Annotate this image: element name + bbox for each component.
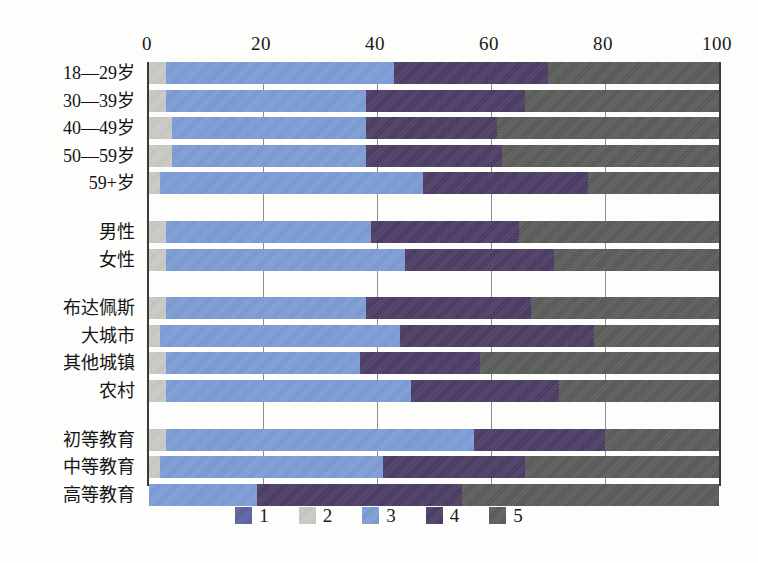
bar-segment (366, 117, 497, 139)
bar-segment (480, 352, 719, 374)
bar-segment (519, 221, 719, 243)
bar-segment (149, 297, 166, 319)
bar-segment (594, 325, 719, 347)
y-axis-label: 50—59岁 (63, 146, 135, 166)
legend-label: 1 (259, 506, 269, 525)
bar-segment (160, 456, 382, 478)
bar-segment (474, 429, 605, 451)
legend-label: 4 (450, 506, 460, 525)
bar-row (149, 429, 719, 451)
bar-segment (149, 484, 257, 506)
bar-row (149, 62, 719, 84)
legend-item[interactable]: 4 (426, 506, 460, 525)
bar-segment (605, 429, 719, 451)
bar-row (149, 380, 719, 402)
x-tick-label: 100 (702, 33, 732, 55)
bar-segment (149, 90, 166, 112)
y-axis-label: 女性 (99, 250, 135, 270)
bar-segment (166, 429, 474, 451)
bar-segment (166, 62, 394, 84)
bar-rows (149, 62, 719, 486)
plot-area (147, 62, 719, 486)
bar-row (149, 90, 719, 112)
bar-segment (423, 172, 588, 194)
bar-segment (360, 352, 480, 374)
legend-item[interactable]: 2 (299, 506, 333, 525)
bar-segment (497, 117, 719, 139)
y-axis-label: 大城市 (81, 326, 135, 346)
bar-segment (166, 380, 411, 402)
bar-segment (166, 249, 405, 271)
y-axis-category-labels: 18—29岁30—39岁40—49岁50—59岁59+岁男性女性布达佩斯大城市其… (0, 62, 141, 486)
legend-swatch-icon (489, 507, 506, 524)
bar-segment (502, 145, 719, 167)
bar-segment (149, 352, 166, 374)
legend-swatch-icon (426, 507, 443, 524)
y-axis-label: 其他城镇 (63, 353, 135, 373)
bar-segment (405, 249, 553, 271)
legend-item[interactable]: 1 (235, 506, 269, 525)
y-axis-label: 30—39岁 (63, 91, 135, 111)
bar-row (149, 145, 719, 167)
bar-segment (166, 221, 371, 243)
y-axis-label: 18—29岁 (63, 63, 135, 83)
bar-segment (394, 62, 548, 84)
bar-segment (149, 456, 160, 478)
bar-row (149, 325, 719, 347)
x-tick-label: 60 (479, 33, 499, 55)
bar-row (149, 172, 719, 194)
bar-segment (149, 429, 166, 451)
x-tick-label: 20 (251, 33, 271, 55)
bar-segment (366, 90, 526, 112)
bar-segment (525, 90, 719, 112)
bar-segment (588, 172, 719, 194)
y-axis-label: 高等教育 (63, 485, 135, 505)
bar-segment (160, 325, 399, 347)
legend-item[interactable]: 3 (362, 506, 396, 525)
bar-row (149, 352, 719, 374)
y-axis-label: 布达佩斯 (63, 298, 135, 318)
gridline (719, 62, 721, 486)
bar-segment (525, 456, 719, 478)
bar-segment (149, 249, 166, 271)
bar-segment (149, 62, 166, 84)
bar-row (149, 249, 719, 271)
bar-row (149, 456, 719, 478)
legend-item[interactable]: 5 (489, 506, 523, 525)
bar-segment (366, 297, 531, 319)
x-tick-label: 0 (142, 33, 152, 55)
stacked-bar-chart: 020406080100 18—29岁30—39岁40—49岁50—59岁59+… (0, 0, 758, 563)
bar-segment (559, 380, 719, 402)
bar-segment (371, 221, 519, 243)
bar-segment (149, 325, 160, 347)
bar-segment (160, 172, 422, 194)
legend-swatch-icon (362, 507, 379, 524)
bar-segment (149, 380, 166, 402)
bar-segment (554, 249, 719, 271)
bar-segment (400, 325, 594, 347)
bar-segment (149, 117, 172, 139)
bar-segment (166, 297, 366, 319)
y-axis-label: 农村 (99, 381, 135, 401)
chart-legend: 12345 (0, 506, 758, 525)
legend-label: 2 (323, 506, 333, 525)
legend-swatch-icon (235, 507, 252, 524)
bar-segment (149, 145, 172, 167)
bar-segment (411, 380, 559, 402)
y-axis-label: 中等教育 (63, 457, 135, 477)
bar-row (149, 484, 719, 506)
bar-segment (166, 352, 360, 374)
bar-segment (172, 117, 366, 139)
bar-row (149, 297, 719, 319)
bar-row (149, 117, 719, 139)
y-axis-label: 初等教育 (63, 430, 135, 450)
y-axis-label: 男性 (99, 222, 135, 242)
x-axis-tick-labels: 020406080100 (147, 33, 717, 57)
x-tick-label: 80 (593, 33, 613, 55)
bar-segment (531, 297, 719, 319)
bar-segment (172, 145, 366, 167)
legend-swatch-icon (299, 507, 316, 524)
legend-label: 5 (513, 506, 523, 525)
bar-row (149, 221, 719, 243)
x-tick-label: 40 (365, 33, 385, 55)
